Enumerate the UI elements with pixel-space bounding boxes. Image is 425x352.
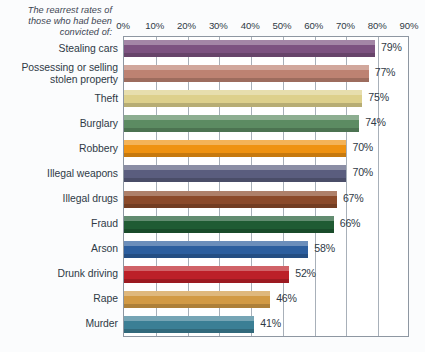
bar-highlight	[124, 316, 254, 321]
bar-highlight	[124, 40, 375, 45]
x-tick-label: 40%	[241, 20, 260, 31]
bar-row: 70%	[124, 137, 408, 162]
bar	[124, 266, 289, 283]
bar-value-label: 75%	[368, 91, 389, 103]
bar	[124, 90, 362, 107]
bar-row: 58%	[124, 238, 408, 263]
bar	[124, 216, 334, 233]
bar-shadow	[124, 304, 270, 308]
category-label: Illegal drugs	[0, 193, 118, 205]
bar	[124, 115, 359, 132]
bar-shadow	[124, 153, 346, 157]
bar-row: 70%	[124, 162, 408, 187]
x-tick-label: 90%	[400, 20, 419, 31]
bar-row: 46%	[124, 288, 408, 313]
bar-row: 41%	[124, 313, 408, 338]
bar-value-label: 74%	[365, 116, 386, 128]
rearrest-rates-chart: The rearrest rates of those who had been…	[0, 0, 425, 352]
bar	[124, 140, 346, 157]
bar	[124, 191, 337, 208]
bar-row: 67%	[124, 188, 408, 213]
category-label: Arson	[0, 243, 118, 255]
bar-row: 77%	[124, 62, 408, 87]
category-label: Illegal weapons	[0, 168, 118, 180]
bar-value-label: 77%	[375, 66, 396, 78]
category-label: Rape	[0, 293, 118, 305]
bar-shadow	[124, 128, 359, 132]
bar-row: 66%	[124, 213, 408, 238]
x-tick-label: 80%	[368, 20, 387, 31]
category-label: Theft	[0, 93, 118, 105]
bar-value-label: 46%	[276, 292, 297, 304]
bar-shadow	[124, 229, 334, 233]
category-label: Murder	[0, 318, 118, 330]
x-tick-label: 20%	[177, 20, 196, 31]
bar-highlight	[124, 90, 362, 95]
category-label: Fraud	[0, 218, 118, 230]
bar-highlight	[124, 266, 289, 271]
bar-highlight	[124, 241, 308, 246]
x-axis-tick-labels: 0%10%20%30%40%50%60%70%80%90%	[123, 20, 409, 34]
category-label: Stealing cars	[0, 43, 118, 55]
bar-value-label: 52%	[295, 267, 316, 279]
bar-shadow	[124, 204, 337, 208]
bar-shadow	[124, 178, 346, 182]
bar-highlight	[124, 165, 346, 170]
x-tick-label: 30%	[209, 20, 228, 31]
category-label: Possessing or selling stolen property	[0, 62, 118, 85]
bar-row: 74%	[124, 112, 408, 137]
bar-shadow	[124, 329, 254, 333]
category-label: Burglary	[0, 118, 118, 130]
bar-shadow	[124, 254, 308, 258]
bar-value-label: 70%	[352, 141, 373, 153]
bar-highlight	[124, 216, 334, 221]
bar-row: 75%	[124, 87, 408, 112]
bar-shadow	[124, 53, 375, 57]
bar-shadow	[124, 279, 289, 283]
bar	[124, 165, 346, 182]
bar	[124, 65, 369, 82]
bar-highlight	[124, 140, 346, 145]
x-tick-label: 50%	[272, 20, 291, 31]
bar-highlight	[124, 115, 359, 120]
bar-row: 79%	[124, 37, 408, 62]
bar-highlight	[124, 291, 270, 296]
category-label: Drunk driving	[0, 268, 118, 280]
bar-value-label: 41%	[260, 317, 281, 329]
bar-row: 52%	[124, 263, 408, 288]
bar-rows: 79%77%75%74%70%70%67%66%58%52%46%41%	[124, 37, 408, 336]
category-axis-labels: Stealing carsPossessing or selling stole…	[0, 36, 118, 337]
bar	[124, 40, 375, 57]
bar	[124, 241, 308, 258]
bar-value-label: 58%	[314, 242, 335, 254]
bar-value-label: 67%	[343, 192, 364, 204]
category-label: Robbery	[0, 143, 118, 155]
bar-highlight	[124, 191, 337, 196]
chart-caption: The rearrest rates of those who had been…	[4, 5, 112, 39]
x-tick-label: 0%	[116, 20, 130, 31]
bar-value-label: 79%	[381, 41, 402, 53]
bar	[124, 291, 270, 308]
x-tick-label: 10%	[145, 20, 164, 31]
bar-value-label: 66%	[340, 217, 361, 229]
plot-area: 79%77%75%74%70%70%67%66%58%52%46%41%	[123, 36, 409, 337]
bar-value-label: 70%	[352, 166, 373, 178]
bar-highlight	[124, 65, 369, 70]
bar-shadow	[124, 78, 369, 82]
x-tick-label: 60%	[304, 20, 323, 31]
x-tick-label: 70%	[336, 20, 355, 31]
bar	[124, 316, 254, 333]
bar-shadow	[124, 103, 362, 107]
